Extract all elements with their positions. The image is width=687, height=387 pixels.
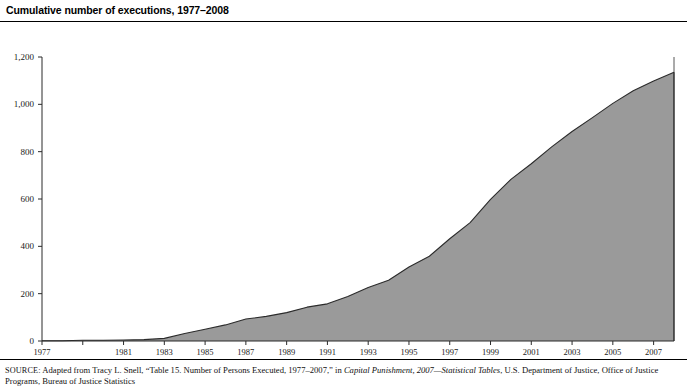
y-axis-tick-label: 400	[0, 241, 34, 251]
x-axis-tick-label: 2005	[604, 347, 621, 357]
x-axis-tick-label: 1987	[237, 347, 254, 357]
x-axis-tick-label: 1981	[115, 347, 132, 357]
x-axis-tick-label: 2007	[645, 347, 662, 357]
x-axis-tick-label: 1985	[197, 347, 214, 357]
x-axis-tick-label: 1995	[400, 347, 417, 357]
source-publication-title: Capital Punishment, 2007—Statistical Tab…	[344, 365, 500, 375]
source-note: SOURCE: Adapted from Tracy L. Snell, “Ta…	[5, 365, 685, 387]
x-axis-tick-label: 1999	[482, 347, 499, 357]
plot-area: 02004006008001,0001,200 1977198119831985…	[0, 40, 687, 355]
x-axis-tick-label: 1997	[441, 347, 458, 357]
source-text-b: , U.S.	[500, 365, 520, 375]
x-axis-tick-label: 1993	[360, 347, 377, 357]
y-axis-tick-label: 800	[0, 147, 34, 157]
footer-divider	[0, 359, 687, 360]
y-axis-tick-label: 600	[0, 194, 34, 204]
title-divider	[0, 21, 687, 22]
y-axis-tick-label: 1,000	[0, 99, 34, 109]
area-fill	[42, 72, 674, 341]
x-axis-tick-label: 1977	[34, 347, 51, 357]
area-chart-svg	[0, 40, 687, 355]
page-title: Cumulative number of executions, 1977–20…	[6, 4, 229, 16]
source-label: SOURCE:	[5, 366, 41, 375]
x-axis-tick-label: 2001	[523, 347, 540, 357]
x-axis-tick-label: 1983	[156, 347, 173, 357]
y-axis-tick-label: 1,200	[0, 52, 34, 62]
x-axis-tick-label: 1989	[278, 347, 295, 357]
y-axis-tick-label: 0	[0, 336, 34, 346]
x-axis-tick-label: 2003	[564, 347, 581, 357]
x-axis-tick-label: 1991	[319, 347, 336, 357]
source-text-a: Adapted from Tracy L. Snell, “Table 15. …	[41, 365, 344, 375]
y-axis-tick-label: 200	[0, 289, 34, 299]
